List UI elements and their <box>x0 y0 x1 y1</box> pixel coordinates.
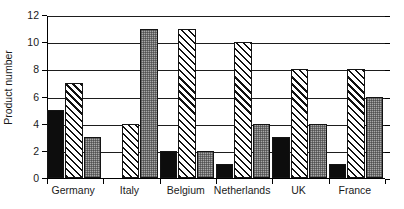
y-tick-label: 0 <box>33 172 39 185</box>
bar <box>122 124 140 178</box>
bar <box>347 69 365 178</box>
bar <box>216 164 234 178</box>
x-tick-mark <box>385 179 386 184</box>
bar <box>197 151 215 178</box>
y-tick-label: 12 <box>27 9 39 22</box>
y-tick-label: 4 <box>33 118 39 131</box>
right-tick-mark <box>385 70 390 71</box>
y-tick-label: 2 <box>33 145 39 158</box>
x-tick-label: UK <box>291 183 306 197</box>
y-tick-label: 8 <box>33 63 39 76</box>
bar <box>253 124 271 178</box>
right-tick-mark <box>385 16 390 17</box>
plot-area <box>47 16 385 179</box>
bar-chart: Product number 024681012 GermanyItalyBel… <box>0 0 404 209</box>
bars-layer <box>48 16 385 178</box>
bar <box>366 97 384 179</box>
y-tick-label: 10 <box>27 36 39 49</box>
x-axis-labels: GermanyItalyBelgiumNetherlandsUKFrance <box>47 183 385 205</box>
right-tick-mark <box>385 152 390 153</box>
y-tick-label: 6 <box>33 91 39 104</box>
x-tick-label: Netherlands <box>214 183 271 197</box>
bar <box>140 29 158 178</box>
right-tick-mark <box>385 125 390 126</box>
x-tick-label: Belgium <box>167 183 205 197</box>
bar <box>272 137 290 178</box>
y-axis-ticks: 024681012 <box>0 16 47 179</box>
x-tick-label: Germany <box>52 183 95 197</box>
right-tick-mark <box>385 43 390 44</box>
bar <box>291 69 309 178</box>
bar <box>65 83 83 178</box>
right-axis-ticks <box>385 16 391 179</box>
x-tick-label: Italy <box>120 183 139 197</box>
bar <box>234 42 252 178</box>
bar <box>84 137 102 178</box>
bar <box>160 151 178 178</box>
right-tick-mark <box>385 98 390 99</box>
bar <box>329 164 347 178</box>
bar <box>178 29 196 178</box>
bar <box>309 124 327 178</box>
x-tick-label: France <box>338 183 371 197</box>
bar <box>47 110 65 178</box>
